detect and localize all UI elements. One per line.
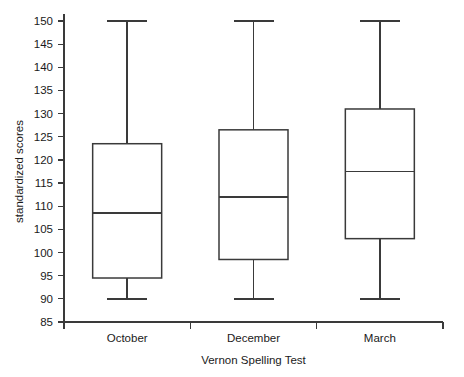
x-category-label: October [107,332,148,344]
box-plot-item [93,21,162,299]
y-tick-label: 110 [35,200,53,212]
boxplot-chart: 859095100105110115120125130135140145150 … [0,0,464,377]
y-tick-label: 115 [35,177,53,189]
x-category-labels: OctoberDecemberMarch [107,332,396,344]
y-tick-label: 145 [34,38,53,50]
y-axis-title: standardized scores [13,120,25,223]
box-iqr-rect [219,130,288,260]
x-category-label: December [227,332,280,344]
y-tick-label: 100 [34,247,53,259]
x-category-label: March [364,332,396,344]
y-tick-label: 105 [34,223,53,235]
y-tick-label: 140 [34,61,53,73]
y-tick-label: 130 [34,108,53,120]
x-axis-ticks [64,322,443,329]
x-axis-title: Vernon Spelling Test [201,354,306,366]
y-axis-ticks: 859095100105110115120125130135140145150 [34,15,64,328]
boxplot-canvas: 859095100105110115120125130135140145150 … [0,0,464,377]
box-plot-item [345,21,414,299]
y-tick-label: 125 [34,131,53,143]
y-tick-label: 135 [34,84,53,96]
box-iqr-rect [345,109,414,239]
y-tick-label: 150 [34,15,53,27]
box-series [93,21,415,299]
y-tick-label: 120 [34,154,53,166]
y-tick-label: 85 [40,316,53,328]
y-tick-label: 95 [40,270,53,282]
box-iqr-rect [93,144,162,278]
box-plot-item [219,21,288,299]
y-tick-label: 90 [40,293,53,305]
